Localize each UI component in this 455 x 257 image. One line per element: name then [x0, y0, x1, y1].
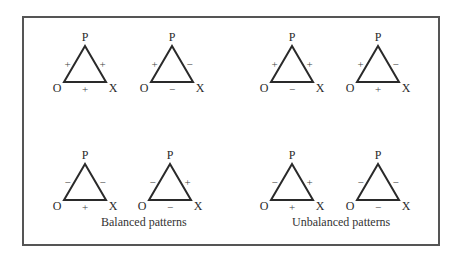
triangle-balanced-6: POX−+−	[138, 148, 203, 213]
sign-px: +	[306, 58, 312, 70]
vertex-label-o: O	[53, 81, 62, 95]
triangle-balanced-1: POX+++	[53, 30, 118, 95]
sign-ox: +	[375, 83, 381, 95]
sign-px: −	[186, 58, 192, 70]
vertex-label-p: P	[82, 148, 89, 162]
sign-op: −	[357, 176, 363, 188]
vertex-label-p: P	[167, 148, 174, 162]
sign-op: −	[64, 176, 70, 188]
sign-op: −	[271, 176, 277, 188]
vertex-label-o: O	[260, 81, 269, 95]
vertex-label-o: O	[138, 199, 147, 213]
sign-px: +	[184, 176, 190, 188]
sign-ox: −	[169, 83, 175, 95]
vertex-label-o: O	[346, 199, 355, 213]
unbalanced-patterns-caption: Unbalanced patterns	[292, 215, 390, 230]
sign-ox: +	[289, 201, 295, 213]
triangle-unbalanced-7: POX−++	[260, 148, 325, 213]
vertex-label-p: P	[375, 30, 382, 44]
vertex-label-o: O	[53, 199, 62, 213]
vertex-label-x: X	[109, 199, 118, 213]
sign-op: +	[64, 58, 70, 70]
vertex-label-x: X	[316, 81, 325, 95]
vertex-label-x: X	[109, 81, 118, 95]
vertex-label-x: X	[316, 199, 325, 213]
sign-ox: +	[82, 201, 88, 213]
triangle-balanced-2: POX+−−	[140, 30, 205, 95]
sign-px: −	[392, 176, 398, 188]
triangle-unbalanced-3: POX++−	[260, 30, 325, 95]
vertex-label-p: P	[375, 148, 382, 162]
vertex-label-o: O	[346, 81, 355, 95]
vertex-label-p: P	[82, 30, 89, 44]
vertex-label-o: O	[260, 199, 269, 213]
triangle-unbalanced-8: POX−−−	[346, 148, 411, 213]
vertex-label-x: X	[402, 81, 411, 95]
vertex-label-p: P	[289, 30, 296, 44]
sign-ox: −	[375, 201, 381, 213]
vertex-label-p: P	[289, 148, 296, 162]
vertex-label-x: X	[402, 199, 411, 213]
triangle-balanced-5: POX−−+	[53, 148, 118, 213]
sign-px: +	[99, 58, 105, 70]
balanced-patterns-caption: Balanced patterns	[101, 215, 187, 230]
sign-ox: −	[289, 83, 295, 95]
sign-px: −	[99, 176, 105, 188]
triangle-unbalanced-4: POX+−+	[346, 30, 411, 95]
sign-px: +	[306, 176, 312, 188]
sign-op: +	[271, 58, 277, 70]
vertex-label-x: X	[194, 199, 203, 213]
sign-op: +	[357, 58, 363, 70]
vertex-label-x: X	[196, 81, 205, 95]
sign-op: −	[149, 176, 155, 188]
vertex-label-o: O	[140, 81, 149, 95]
sign-ox: −	[167, 201, 173, 213]
sign-px: −	[392, 58, 398, 70]
sign-ox: +	[82, 83, 88, 95]
sign-op: +	[151, 58, 157, 70]
vertex-label-p: P	[169, 30, 176, 44]
